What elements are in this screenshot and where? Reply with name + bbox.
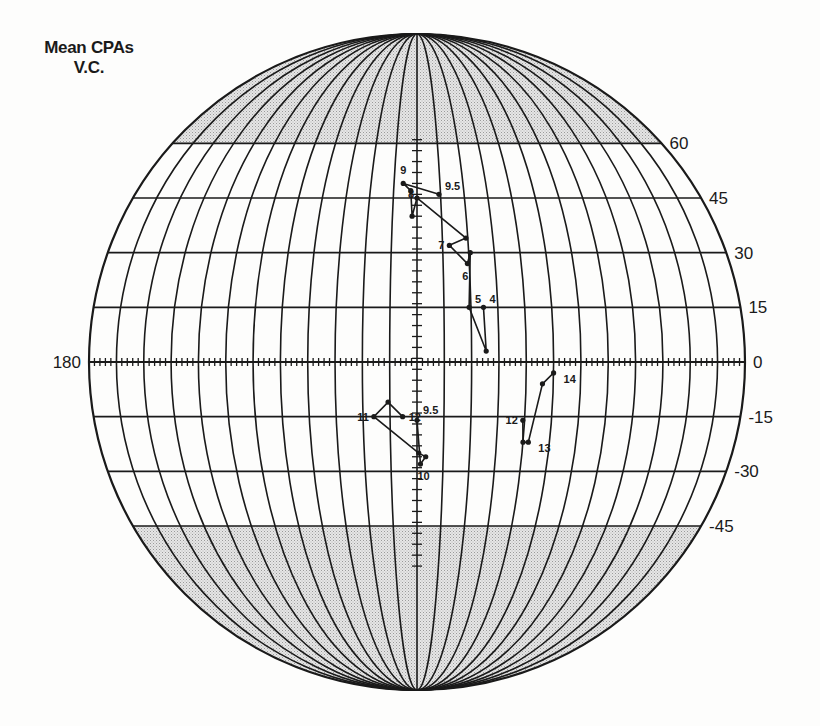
- track-point: [414, 195, 419, 200]
- latitude-label: 60: [669, 134, 688, 153]
- track-point: [481, 305, 486, 310]
- track-point: [484, 348, 489, 353]
- track-point: [467, 305, 472, 310]
- track-point: [520, 440, 525, 445]
- track-point: [540, 381, 545, 386]
- track-point: [371, 414, 376, 419]
- track-point: [416, 451, 421, 456]
- track-point: [418, 461, 423, 466]
- point-label: 11: [357, 411, 369, 423]
- track-point: [400, 414, 405, 419]
- point-label: 12: [506, 414, 518, 426]
- track-point: [410, 214, 415, 219]
- point-label: 10: [417, 470, 429, 482]
- latitude-label: 15: [748, 298, 767, 317]
- longitude-label-180: 180: [53, 353, 81, 372]
- point-label: 9.5: [445, 180, 460, 192]
- point-label: 9.5: [423, 404, 438, 416]
- track-point: [526, 440, 531, 445]
- latitude-label: -30: [734, 462, 759, 481]
- latitude-label: 30: [734, 244, 753, 263]
- latitude-label: 0: [753, 353, 762, 372]
- track-point: [423, 454, 428, 459]
- track-line: [523, 373, 554, 442]
- globe-chart: 4567899.51211109.5121314 604530150-15-30…: [0, 0, 820, 726]
- point-label: 9: [400, 164, 406, 176]
- track-point: [551, 370, 556, 375]
- point-label: 7: [438, 239, 444, 251]
- track-point: [385, 399, 390, 404]
- latitude-label: -15: [748, 408, 773, 427]
- track-point: [408, 188, 413, 193]
- track-point: [447, 243, 452, 248]
- track-point: [468, 250, 473, 255]
- track-point: [436, 192, 441, 197]
- latitude-label: 45: [709, 189, 728, 208]
- point-label: 13: [538, 442, 550, 454]
- track-point: [520, 418, 525, 423]
- point-label: 5: [475, 293, 481, 305]
- track-point: [414, 418, 419, 423]
- track-point: [465, 261, 470, 266]
- track-point: [401, 181, 406, 186]
- point-label: 14: [564, 373, 577, 385]
- track-point: [463, 235, 468, 240]
- point-label: 4: [489, 293, 496, 305]
- latitude-label: -45: [709, 517, 734, 536]
- point-label: 6: [462, 270, 468, 282]
